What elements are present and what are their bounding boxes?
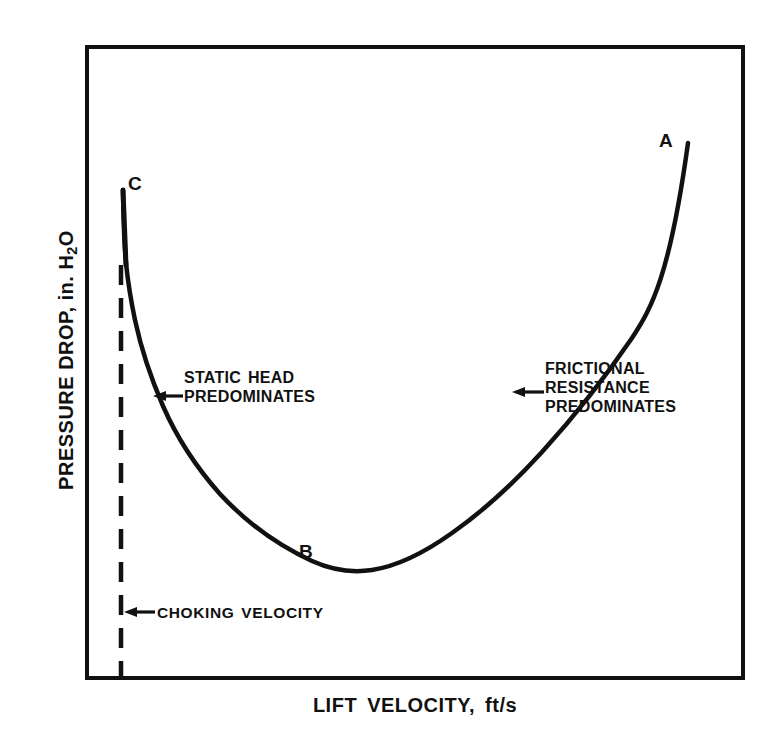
point-label-b: B [299,542,313,561]
y-axis-title-suffix: O [55,230,77,246]
x-axis-title: LIFT VELOCITY, ft/s [85,694,745,717]
annotation-frictional-resistance: FRICTIONAL RESISTANCE PREDOMINATES [545,359,676,416]
annotation-choking-velocity: CHOKING VELOCITY [157,603,324,622]
point-label-a: A [659,131,673,150]
figure-container: A B C STATIC HEAD PREDOMINATES FRICTIONA… [0,0,778,732]
y-axis-title: PRESSURE DROP, in. H2O [44,110,88,610]
annotation-static-head: STATIC HEAD PREDOMINATES [184,368,315,406]
point-label-c: C [128,174,142,193]
y-axis-title-subscript: 2 [64,246,80,255]
y-axis-title-prefix: PRESSURE DROP, in. H [55,255,77,490]
